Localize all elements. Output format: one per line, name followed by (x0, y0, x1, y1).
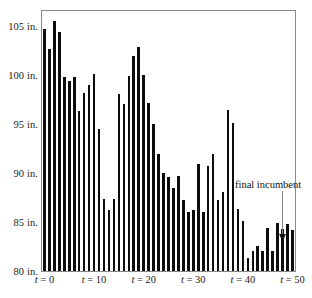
bar (128, 76, 131, 271)
bar (252, 251, 255, 271)
bar (291, 230, 294, 271)
x-axis-tick-label: t = 50 (280, 274, 305, 285)
bar (227, 110, 230, 271)
bar (256, 246, 259, 271)
annotation-arrow-icon (278, 191, 287, 243)
x-axis-tick-label: t = 0 (35, 274, 54, 285)
bar (197, 164, 200, 271)
bar (261, 251, 264, 271)
annotation-final-incumbent: final incumbent (235, 179, 301, 190)
y-axis-tick-label: 95 in. (13, 118, 38, 129)
figure-container: 80 in.85 in.90 in.95 in.100 in.105 in. t… (0, 0, 312, 298)
bar (207, 166, 210, 271)
bar (157, 154, 160, 271)
bar (53, 21, 56, 271)
bar (232, 123, 235, 271)
x-axis-tick-label: t = 20 (131, 274, 156, 285)
bar (202, 212, 205, 271)
x-axis-tick-label: t = 10 (82, 274, 107, 285)
x-axis-tick-label: t = 40 (231, 274, 256, 285)
bar (118, 94, 121, 271)
bar (83, 93, 86, 271)
bar (48, 49, 51, 271)
bar (237, 209, 240, 271)
plot-area: 80 in.85 in.90 in.95 in.100 in.105 in. t… (41, 10, 296, 272)
bar (142, 75, 145, 271)
bar (123, 104, 126, 271)
bar (266, 228, 269, 271)
bar (177, 176, 180, 271)
bar (187, 212, 190, 271)
x-axis-tick-label: t = 30 (181, 274, 206, 285)
bar (212, 154, 215, 271)
y-axis-tick-label: 90 in. (13, 167, 38, 178)
bar (113, 199, 116, 271)
bar (93, 74, 96, 271)
bar-series (42, 11, 295, 271)
bar (63, 77, 66, 271)
bar (172, 188, 175, 271)
bar (217, 200, 220, 271)
bar (242, 221, 245, 271)
bar (271, 251, 274, 271)
y-axis-tick-label: 100 in. (8, 69, 38, 80)
bar (137, 47, 140, 271)
y-axis-tick-label: 105 in. (8, 20, 38, 31)
bar (98, 129, 101, 271)
bar (132, 56, 135, 271)
bar (108, 210, 111, 271)
bar (103, 199, 106, 271)
bar (152, 124, 155, 271)
bar (58, 32, 61, 271)
bar (147, 103, 150, 271)
bar (73, 77, 76, 271)
bar (68, 81, 71, 271)
bar (43, 29, 46, 271)
bar (192, 210, 195, 271)
y-axis-tick-label: 85 in. (13, 216, 38, 227)
bar (182, 200, 185, 271)
bar (162, 173, 165, 271)
bar (222, 192, 225, 271)
bar (88, 85, 91, 271)
bar (247, 258, 250, 271)
bar (167, 177, 170, 271)
bar (78, 111, 81, 271)
